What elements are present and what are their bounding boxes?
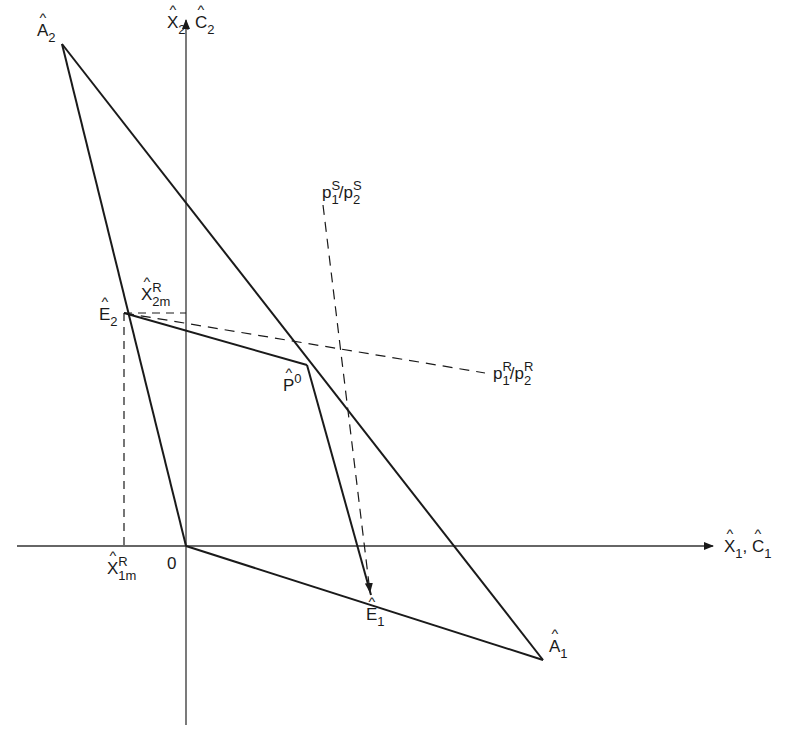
price-r-p1: p: [493, 364, 502, 383]
point-p0-label: P0: [283, 372, 302, 394]
point-e1-sub: 1: [377, 614, 384, 629]
y-axis-label-c: C: [195, 14, 207, 31]
point-e2-letter: E: [99, 306, 110, 323]
x1m-sub: 1m: [118, 568, 136, 583]
price-s-scripts-2: S2: [353, 193, 360, 206]
x-axis-label-c: C: [752, 538, 764, 555]
x1m-letter: X: [107, 560, 118, 577]
x2m-scripts: R2m: [152, 295, 170, 308]
price-ratio-r-label: pR1/pR2: [493, 365, 531, 387]
point-a2-sub: 2: [48, 30, 55, 45]
x1m-sup: R: [118, 555, 127, 568]
x1m-label: XR1m: [107, 560, 136, 582]
origin-label: 0: [167, 555, 176, 572]
point-a1-sub: 1: [560, 646, 567, 661]
point-a1-letter: A: [549, 638, 560, 655]
point-p0-letter: P: [283, 377, 294, 394]
point-a2-letter: A: [37, 22, 48, 39]
price-r-sub2: 2: [524, 373, 531, 388]
x2m-sup: R: [152, 281, 161, 294]
point-e1-letter: E: [366, 606, 377, 623]
x-axis-label-x-sub: 1: [735, 546, 742, 561]
price-ratio-s-label: pS1/pS2: [322, 184, 360, 206]
price-r-scripts-1: R1: [502, 374, 509, 387]
x2m-sub: 2m: [152, 294, 170, 309]
price-s-sup2: S: [353, 179, 362, 192]
point-a2-label: A2: [37, 22, 56, 44]
dashed-price-line-s: [323, 205, 370, 592]
price-r-scripts-2: R2: [524, 374, 531, 387]
price-r-sup2: R: [524, 360, 533, 373]
x-axis-label: X1, C1: [724, 538, 772, 560]
x-axis-label-x: X: [724, 538, 735, 555]
price-r-sub1: 1: [502, 373, 509, 388]
price-r-p2: p: [514, 364, 523, 383]
x1m-scripts: R1m: [118, 569, 136, 582]
y-axis-label-x-sub: 2: [178, 22, 185, 37]
price-r-sup1: R: [502, 360, 511, 373]
price-s-sub1: 1: [331, 192, 338, 207]
y-axis-label: X2, C2: [167, 14, 215, 36]
price-s-scripts-1: S1: [331, 193, 338, 206]
point-e1-label: E1: [366, 606, 385, 628]
point-p0-sup: 0: [294, 371, 301, 386]
x2m-letter: X: [141, 286, 152, 303]
x2m-label: XR2m: [141, 286, 170, 308]
diagram-canvas: [0, 0, 790, 737]
price-s-p1: p: [322, 183, 331, 202]
point-a1-label: A1: [549, 638, 568, 660]
point-e2-label: E2: [99, 306, 118, 328]
y-axis-label-c-sub: 2: [207, 22, 214, 37]
point-e2-sub: 2: [110, 314, 117, 329]
price-s-p2: p: [343, 183, 352, 202]
price-s-sup1: S: [331, 179, 340, 192]
x-axis-label-c-sub: 1: [764, 546, 771, 561]
line-origin-a1: [186, 546, 543, 660]
price-s-sub2: 2: [353, 192, 360, 207]
y-axis-label-x: X: [167, 14, 178, 31]
